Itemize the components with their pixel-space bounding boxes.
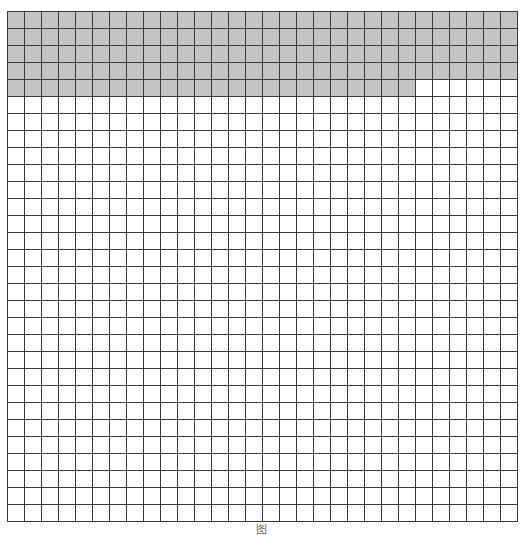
- grid-cell-empty: [331, 437, 348, 454]
- grid-cell-empty: [416, 301, 433, 318]
- grid-cell-empty: [195, 420, 212, 437]
- grid-cell-shaded: [331, 12, 348, 29]
- grid-cell-shaded: [25, 80, 42, 97]
- grid-cell-empty: [59, 352, 76, 369]
- grid-cell-empty: [76, 233, 93, 250]
- grid-cell-empty: [59, 97, 76, 114]
- grid-cell-empty: [450, 250, 467, 267]
- grid-cell-empty: [76, 182, 93, 199]
- grid-cell-empty: [110, 437, 127, 454]
- grid-cell-empty: [484, 131, 501, 148]
- grid-cell-empty: [178, 182, 195, 199]
- grid-cell-empty: [467, 386, 484, 403]
- grid-cell-empty: [416, 437, 433, 454]
- grid-cell-empty: [365, 369, 382, 386]
- grid-cell-empty: [263, 335, 280, 352]
- grid-cell-empty: [416, 488, 433, 505]
- grid-cell-empty: [416, 250, 433, 267]
- grid-cell-empty: [501, 284, 518, 301]
- grid-cell-shaded: [382, 80, 399, 97]
- grid-cell-empty: [348, 369, 365, 386]
- grid-cell-empty: [450, 369, 467, 386]
- grid-cell-empty: [382, 114, 399, 131]
- grid-cell-shaded: [212, 12, 229, 29]
- grid-cell-shaded: [178, 46, 195, 63]
- grid-cell-shaded: [212, 80, 229, 97]
- grid-cell-shaded: [246, 46, 263, 63]
- grid-cell-empty: [229, 488, 246, 505]
- grid-cell-empty: [59, 148, 76, 165]
- grid-cell-empty: [314, 386, 331, 403]
- grid-cell-shaded: [25, 63, 42, 80]
- grid-cell-empty: [331, 301, 348, 318]
- grid-cell-empty: [195, 301, 212, 318]
- grid-cell-empty: [399, 250, 416, 267]
- grid-cell-empty: [59, 250, 76, 267]
- grid-cell-empty: [263, 454, 280, 471]
- grid-cell-empty: [25, 165, 42, 182]
- grid-cell-empty: [212, 318, 229, 335]
- grid-cell-empty: [93, 182, 110, 199]
- grid-cell-empty: [59, 386, 76, 403]
- grid-cell-empty: [501, 488, 518, 505]
- grid-cell-empty: [42, 216, 59, 233]
- grid-cell-shaded: [263, 63, 280, 80]
- grid-cell-empty: [161, 454, 178, 471]
- grid-cell-empty: [416, 403, 433, 420]
- grid-cell-empty: [433, 131, 450, 148]
- grid-cell-empty: [280, 454, 297, 471]
- grid-cell-empty: [144, 97, 161, 114]
- grid-cell-shaded: [416, 29, 433, 46]
- grid-cell-empty: [365, 318, 382, 335]
- grid-cell-empty: [314, 352, 331, 369]
- grid-cell-empty: [399, 403, 416, 420]
- grid-cell-empty: [501, 437, 518, 454]
- grid-cell-empty: [178, 437, 195, 454]
- grid-cell-empty: [314, 267, 331, 284]
- grid-cell-empty: [280, 114, 297, 131]
- grid-cell-empty: [59, 284, 76, 301]
- grid-cell-empty: [195, 114, 212, 131]
- grid-cell-empty: [127, 267, 144, 284]
- grid-cell-empty: [263, 97, 280, 114]
- grid-cell-empty: [450, 420, 467, 437]
- grid-cell-empty: [467, 114, 484, 131]
- grid-cell-empty: [399, 386, 416, 403]
- grid-cell-empty: [161, 148, 178, 165]
- grid-cell-empty: [382, 182, 399, 199]
- grid-cell-empty: [195, 454, 212, 471]
- grid-cell-empty: [382, 369, 399, 386]
- grid-cell-empty: [93, 437, 110, 454]
- grid-cell-shaded: [399, 46, 416, 63]
- grid-cell-empty: [110, 199, 127, 216]
- grid-cell-empty: [76, 148, 93, 165]
- grid-cell-empty: [229, 199, 246, 216]
- grid-cell-empty: [263, 267, 280, 284]
- grid-cell-empty: [8, 182, 25, 199]
- grid-cell-empty: [127, 250, 144, 267]
- grid-cell-empty: [348, 165, 365, 182]
- grid-cell-empty: [212, 403, 229, 420]
- grid-cell-empty: [280, 437, 297, 454]
- grid-cell-empty: [467, 335, 484, 352]
- grid-cell-shaded: [297, 63, 314, 80]
- grid-cell-empty: [263, 369, 280, 386]
- grid-cell-shaded: [365, 29, 382, 46]
- grid-cell-empty: [246, 199, 263, 216]
- grid-cell-empty: [399, 284, 416, 301]
- grid-cell-empty: [450, 403, 467, 420]
- grid-cell-empty: [416, 114, 433, 131]
- grid-cell-empty: [229, 216, 246, 233]
- grid-cell-empty: [416, 199, 433, 216]
- grid-cell-empty: [127, 403, 144, 420]
- grid-cell-empty: [161, 233, 178, 250]
- grid-cell-empty: [399, 97, 416, 114]
- grid-cell-shaded: [263, 29, 280, 46]
- grid-cell-empty: [433, 148, 450, 165]
- grid-cell-empty: [76, 267, 93, 284]
- grid-cell-empty: [212, 216, 229, 233]
- grid-cell-empty: [212, 233, 229, 250]
- grid-cell-empty: [76, 352, 93, 369]
- grid-cell-empty: [501, 250, 518, 267]
- grid-cell-empty: [297, 335, 314, 352]
